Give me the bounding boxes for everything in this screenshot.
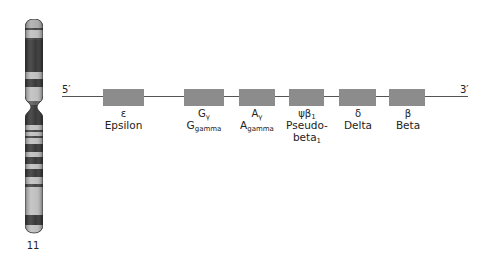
gene-label-g-gamma: Gγ Ggamma xyxy=(174,108,234,131)
gene-box-delta xyxy=(339,89,376,106)
gene-symbol: G xyxy=(198,108,206,119)
gene-label-pseudo-beta1: ψβ1 Pseudo- beta1 xyxy=(279,108,335,143)
gene-box-beta xyxy=(389,89,425,106)
gene-box-a-gamma xyxy=(239,89,275,106)
gene-name: Delta xyxy=(330,119,386,131)
gene-name: Pseudo- xyxy=(279,119,335,131)
gene-name: G xyxy=(187,119,195,131)
beta-globin-gene-cluster-map: 5′ 3′ ε Epsilon Gγ Ggamma Aγ Agamma ψβ1 … xyxy=(0,0,484,267)
gene-label-beta: β Beta xyxy=(380,108,436,131)
gene-name-subscript: gamma xyxy=(247,125,274,133)
gene-label-epsilon: ε Epsilon xyxy=(93,108,154,131)
gene-name-line2: beta xyxy=(293,131,317,143)
gene-label-delta: δ Delta xyxy=(330,108,386,131)
three-prime-label: 3′ xyxy=(460,84,469,95)
gene-symbol: ε xyxy=(93,108,154,119)
gene-box-epsilon xyxy=(103,89,144,106)
gene-symbol: δ xyxy=(330,108,386,119)
gene-box-pseudo-beta1 xyxy=(289,89,324,106)
gene-name: Beta xyxy=(380,119,436,131)
five-prime-label: 5′ xyxy=(62,84,71,95)
gene-box-g-gamma xyxy=(184,89,224,106)
gene-symbol: β xyxy=(380,108,436,119)
gene-label-a-gamma: Aγ Agamma xyxy=(227,108,287,131)
gene-name: Epsilon xyxy=(93,119,154,131)
gene-symbol: ψβ xyxy=(298,108,311,119)
gene-name-line2-subscript: 1 xyxy=(317,137,321,145)
gene-name-subscript: gamma xyxy=(195,125,222,133)
